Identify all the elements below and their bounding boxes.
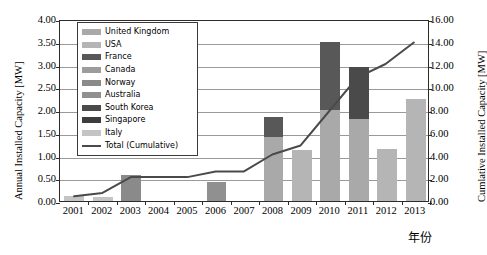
legend-swatch-icon bbox=[82, 130, 101, 136]
y-axis-left-tickmark bbox=[56, 180, 60, 181]
y-axis-right-tick-label: 16.00 bbox=[430, 15, 454, 26]
legend-swatch-icon bbox=[82, 67, 101, 73]
y-axis-right-tickmark bbox=[428, 135, 432, 136]
y-axis-right-tickmark bbox=[428, 21, 432, 22]
y-axis-left-tick-label: 2.50 bbox=[38, 83, 56, 94]
bar-segment bbox=[349, 119, 369, 201]
y-axis-right-tick-label: 8.00 bbox=[430, 106, 448, 117]
x-axis-tick-label: 2006 bbox=[201, 205, 229, 216]
bar-segment bbox=[406, 99, 426, 201]
y-axis-left-tickmark bbox=[56, 135, 60, 136]
x-axis-tick-label: 2007 bbox=[230, 205, 258, 216]
y-axis-right-tickmark bbox=[428, 67, 432, 68]
y-axis-left-tickmark bbox=[56, 158, 60, 159]
x-axis-tick-label: 2010 bbox=[315, 205, 343, 216]
x-axis-tick-label: 2005 bbox=[173, 205, 201, 216]
x-axis-tick-label: 2003 bbox=[116, 205, 144, 216]
legend-item-label: Italy bbox=[105, 129, 122, 137]
legend-item-label: South Korea bbox=[105, 104, 153, 112]
y-axis-left-tickmark bbox=[56, 44, 60, 45]
legend-item[interactable]: France bbox=[82, 51, 193, 64]
legend-item[interactable]: Norway bbox=[82, 76, 193, 89]
legend-swatch-icon bbox=[82, 80, 101, 86]
x-axis-title: 年份 bbox=[408, 228, 432, 245]
legend-swatch-icon bbox=[82, 92, 101, 98]
y-axis-left-tick-label: 0.50 bbox=[38, 174, 56, 185]
y-axis-right-tick-label: 10.00 bbox=[430, 83, 454, 94]
bar-group bbox=[320, 19, 340, 201]
y-axis-left-tickmark bbox=[56, 89, 60, 90]
bar-group bbox=[207, 19, 227, 201]
bar-segment bbox=[292, 150, 312, 201]
bar-group bbox=[406, 19, 426, 201]
x-axis-tick-label: 2009 bbox=[287, 205, 315, 216]
x-axis-tick-label: 2012 bbox=[372, 205, 400, 216]
bar-segment bbox=[64, 196, 84, 201]
bar-segment bbox=[377, 149, 397, 201]
bar-segment bbox=[207, 182, 227, 201]
bar-group bbox=[377, 19, 397, 201]
y-axis-right-title: Cumlative Installed Capacity [MW] bbox=[476, 51, 487, 202]
legend-item[interactable]: USA bbox=[82, 39, 193, 52]
y-axis-right-tickmark bbox=[428, 44, 432, 45]
y-axis-left-tickmark bbox=[56, 67, 60, 68]
y-axis-left-tick-label: 2.00 bbox=[38, 106, 56, 117]
y-axis-left-tickmark bbox=[56, 21, 60, 22]
legend-item[interactable]: South Korea bbox=[82, 102, 193, 115]
bar-segment bbox=[349, 67, 369, 119]
legend-item-label: Singapore bbox=[105, 116, 145, 124]
y-axis-left-tick-label: 1.00 bbox=[38, 152, 56, 163]
y-axis-right-tick-label: 4.00 bbox=[430, 152, 448, 163]
legend-item-label: Australia bbox=[105, 91, 140, 99]
y-axis-right-tick-label: 6.00 bbox=[430, 129, 448, 140]
y-axis-right-tick-label: 14.00 bbox=[430, 38, 454, 49]
bar-segment bbox=[264, 117, 284, 137]
y-axis-right-tickmark bbox=[428, 158, 432, 159]
y-axis-left-tickmark bbox=[56, 203, 60, 204]
x-axis-tick-label: 2001 bbox=[59, 205, 87, 216]
x-axis-tick-label: 2011 bbox=[344, 205, 372, 216]
legend-item-label: USA bbox=[105, 41, 122, 49]
x-axis-tickmark bbox=[430, 201, 431, 205]
y-axis-right-tickmark bbox=[428, 89, 432, 90]
bar-segment bbox=[320, 110, 340, 201]
x-axis-tick-label: 2008 bbox=[258, 205, 286, 216]
y-axis-right-tick-label: 2.00 bbox=[430, 174, 448, 185]
x-axis-ticks: 2001200220032004200520062007200820092010… bbox=[59, 205, 429, 223]
legend-swatch-icon bbox=[82, 42, 101, 48]
bar-group bbox=[235, 19, 255, 201]
x-axis-tick-label: 2002 bbox=[87, 205, 115, 216]
bar-group bbox=[264, 19, 284, 201]
bar-segment bbox=[320, 42, 340, 110]
legend-item-label: Norway bbox=[105, 79, 135, 87]
y-axis-right-tick-label: 0.00 bbox=[430, 197, 448, 208]
legend-swatch-icon bbox=[82, 105, 101, 111]
legend-item-label: France bbox=[105, 53, 132, 61]
y-axis-left-tick-label: 3.50 bbox=[38, 38, 56, 49]
legend-item[interactable]: Total (Cumulative) bbox=[82, 139, 193, 152]
legend-item-label: United Kingdom bbox=[105, 28, 169, 36]
x-axis-tick-label: 2004 bbox=[144, 205, 172, 216]
y-axis-left-tick-label: 1.50 bbox=[38, 129, 56, 140]
legend-item[interactable]: United Kingdom bbox=[82, 26, 193, 39]
bar-group bbox=[292, 19, 312, 201]
legend-item[interactable]: Italy bbox=[82, 127, 193, 140]
legend-item[interactable]: Singapore bbox=[82, 114, 193, 127]
y-axis-right-tickmark bbox=[428, 180, 432, 181]
y-axis-right-ticks: 0.002.004.006.008.0010.0012.0014.0016.00 bbox=[430, 0, 474, 255]
x-axis-tick-label: 2013 bbox=[401, 205, 429, 216]
legend-item[interactable]: Australia bbox=[82, 89, 193, 102]
chart-legend: United KingdomUSAFranceCanadaNorwayAustr… bbox=[77, 22, 198, 156]
bar-segment bbox=[121, 175, 141, 201]
legend-item[interactable]: Canada bbox=[82, 64, 193, 77]
legend-swatch-icon bbox=[82, 29, 101, 35]
bar-group bbox=[349, 19, 369, 201]
y-axis-right-tickmark bbox=[428, 112, 432, 113]
legend-swatch-icon bbox=[82, 54, 101, 60]
bar-segment bbox=[264, 137, 284, 201]
y-axis-right-tick-label: 12.00 bbox=[430, 61, 454, 72]
y-axis-left-tick-label: 0.00 bbox=[38, 197, 56, 208]
legend-item-label: Total (Cumulative) bbox=[105, 142, 178, 150]
legend-item-label: Canada bbox=[105, 66, 135, 74]
